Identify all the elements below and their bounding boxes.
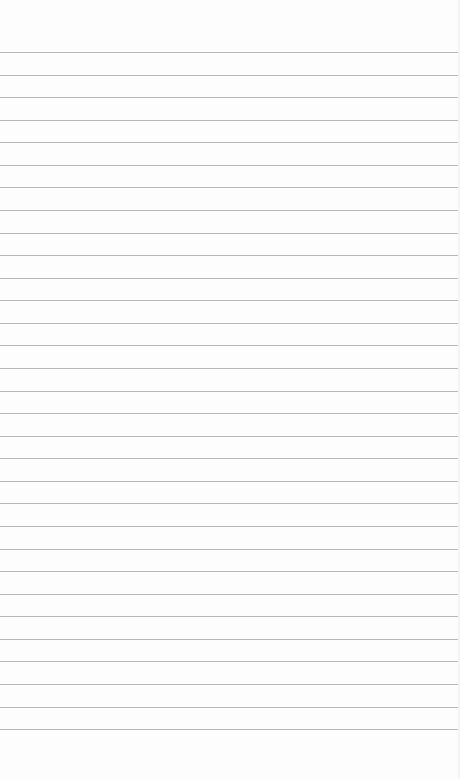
- ruled-line: [0, 120, 458, 121]
- ruled-line: [0, 323, 458, 324]
- ruled-line: [0, 142, 458, 143]
- ruled-line: [0, 639, 458, 640]
- ruled-line: [0, 661, 458, 662]
- ruled-line: [0, 458, 458, 459]
- ruled-line: [0, 233, 458, 234]
- ruled-line: [0, 594, 458, 595]
- ruled-line: [0, 278, 458, 279]
- ruled-line: [0, 300, 458, 301]
- ruled-line: [0, 345, 458, 346]
- lined-paper-sheet: [0, 0, 460, 779]
- ruled-line: [0, 391, 458, 392]
- ruled-line: [0, 526, 458, 527]
- ruled-line: [0, 684, 458, 685]
- ruled-line: [0, 571, 458, 572]
- ruled-line: [0, 503, 458, 504]
- ruled-line: [0, 413, 458, 414]
- ruled-line: [0, 75, 458, 76]
- ruled-line: [0, 255, 458, 256]
- ruled-line: [0, 165, 458, 166]
- ruled-line: [0, 436, 458, 437]
- ruled-line: [0, 210, 458, 211]
- ruled-line: [0, 616, 458, 617]
- ruled-line: [0, 729, 458, 730]
- ruled-line: [0, 549, 458, 550]
- ruled-line: [0, 481, 458, 482]
- ruled-line: [0, 187, 458, 188]
- ruled-line: [0, 52, 458, 53]
- ruled-line: [0, 97, 458, 98]
- ruled-line: [0, 707, 458, 708]
- ruled-line: [0, 368, 458, 369]
